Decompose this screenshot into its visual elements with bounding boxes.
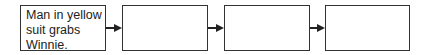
box-1-text: Man in yellow suit grabs Winnie.	[26, 8, 102, 53]
arrowhead-icon	[114, 24, 122, 32]
box-1: Man in yellow suit grabs Winnie.	[20, 5, 106, 51]
arrow-2	[208, 27, 224, 29]
arrow-1	[106, 27, 122, 29]
box-4	[325, 5, 410, 51]
arrow-3	[310, 27, 325, 29]
box-2	[122, 5, 208, 51]
arrowhead-icon	[216, 24, 224, 32]
arrowhead-icon	[317, 24, 325, 32]
box-3	[224, 5, 310, 51]
